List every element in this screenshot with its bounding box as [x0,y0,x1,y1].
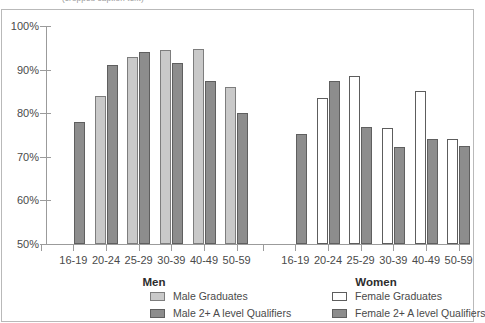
legend-label: Female 2+ A level Qualifiers [355,307,485,319]
bar-women-20-24-alevel [329,81,340,244]
x-label-men-30-39: 30-39 [157,254,185,266]
y-tick-label: 70% [17,151,39,163]
chart-legend: Male GraduatesMale 2+ A level Qualifiers… [2,286,475,323]
legend-label: Male 2+ A level Qualifiers [173,307,291,319]
legend-label: Female Graduates [355,290,442,302]
x-tick-mark [106,244,107,251]
bar-men-20-24-alevel [107,65,118,244]
y-tick-label: 60% [17,194,39,206]
x-label-women-16-19: 16-19 [281,254,309,266]
bar-men-20-24-graduates [95,96,106,244]
bar-men-50-59-graduates [225,87,236,244]
legend-label: Male Graduates [173,290,248,302]
bar-women-25-29-graduates [349,76,360,244]
bar-women-40-49-alevel [427,139,438,244]
plot-area: 50%60%70%80%90%100% 16-1920-2425-2930-39… [46,26,474,254]
x-label-women-30-39: 30-39 [379,254,407,266]
x-label-women-20-24: 20-24 [314,254,342,266]
bar-men-25-29-graduates [127,57,138,244]
x-tick-mark [73,244,74,251]
y-tick-label: 50% [17,238,39,250]
bar-men-50-59-alevel [237,113,248,244]
x-tick-mark [263,244,264,251]
legend-swatch-icon [150,309,165,318]
x-tick-mark [328,244,329,251]
x-label-women-25-29: 25-29 [347,254,375,266]
x-label-women-50-59: 50-59 [445,254,473,266]
x-tick-mark [295,244,296,251]
cropped-top-caption: (cropped caption text) [62,0,392,3]
y-tick-label: 80% [17,107,39,119]
category-axis [46,244,470,245]
x-label-men-50-59: 50-59 [223,254,251,266]
bar-women-40-49-graduates [415,91,426,244]
legend-item-female-2-a-level-qualifiers[interactable]: Female 2+ A level Qualifiers [332,307,485,319]
x-tick-mark [393,244,394,251]
legend-swatch-icon [332,309,347,318]
legend-item-female-graduates[interactable]: Female Graduates [332,290,442,302]
x-label-men-40-49: 40-49 [190,254,218,266]
bar-men-25-29-alevel [139,52,150,244]
bar-women-30-39-alevel [394,147,405,244]
legend-swatch-icon [332,292,347,301]
legend-item-male-graduates[interactable]: Male Graduates [150,290,248,302]
x-tick-mark [237,244,238,251]
bar-men-30-39-alevel [172,63,183,244]
bar-women-16-19-alevel [296,134,307,244]
y-tick-label: 100% [11,20,39,32]
bar-women-50-59-graduates [447,139,458,244]
x-tick-mark [171,244,172,251]
x-tick-mark [459,244,460,251]
bar-women-25-29-alevel [361,127,372,244]
bar-women-20-24-graduates [317,98,328,244]
bar-men-40-49-graduates [193,49,204,244]
x-label-men-25-29: 25-29 [125,254,153,266]
bar-series-container [47,26,470,244]
x-tick-mark [426,244,427,251]
bar-women-30-39-graduates [382,128,393,244]
x-tick-mark [139,244,140,251]
x-tick-mark [41,244,42,251]
x-tick-mark [204,244,205,251]
legend-item-male-2-a-level-qualifiers[interactable]: Male 2+ A level Qualifiers [150,307,291,319]
legend-swatch-icon [150,292,165,301]
x-label-men-20-24: 20-24 [92,254,120,266]
x-label-women-40-49: 40-49 [412,254,440,266]
x-label-men-16-19: 16-19 [59,254,87,266]
bar-men-40-49-alevel [205,81,216,244]
bar-men-30-39-graduates [160,50,171,244]
bar-men-16-19-alevel [74,122,85,244]
x-tick-mark [361,244,362,251]
chart-frame: 50%60%70%80%90%100% 16-1920-2425-2930-39… [1,9,474,322]
y-tick-label: 90% [17,64,39,76]
bar-women-50-59-alevel [459,146,470,244]
